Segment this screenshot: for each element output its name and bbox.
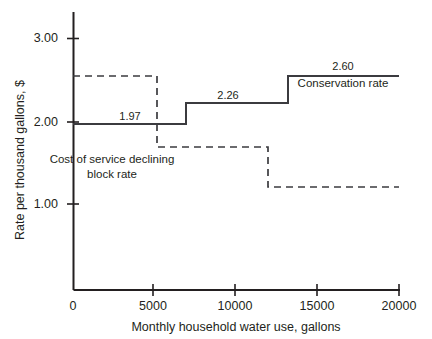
declining-block-rate-annotation: Cost of service declining block rate — [12, 152, 212, 181]
value-label-197: 1.97 — [119, 111, 140, 122]
y-tick-label-3: 3.00 — [18, 32, 58, 45]
declining-block-rate-annotation-line1: Cost of service declining — [12, 152, 212, 167]
x-tick-label-0: 0 — [70, 300, 77, 313]
x-tick-label-10000: 10000 — [218, 300, 253, 313]
x-tick-label-20000: 20000 — [382, 300, 417, 313]
declining-block-rate-annotation-line2: block rate — [12, 167, 212, 182]
conservation-rate-annotation: Conservation rate — [298, 78, 389, 90]
chart-figure: 3.00 2.00 1.00 0 5000 10000 15000 20000 … — [0, 0, 432, 339]
x-tick-label-5000: 5000 — [139, 300, 167, 313]
value-label-226: 2.26 — [217, 90, 238, 101]
value-label-260: 2.60 — [332, 61, 353, 72]
x-tick-label-15000: 15000 — [300, 300, 335, 313]
x-axis-title: Monthly household water use, gallons — [131, 321, 340, 334]
